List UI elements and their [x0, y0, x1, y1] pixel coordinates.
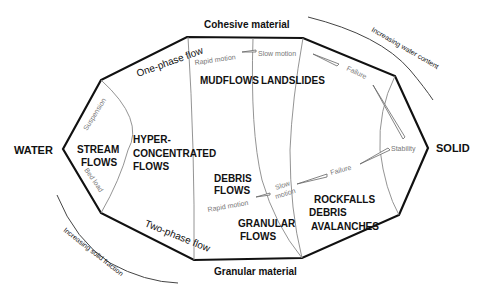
- region-hyper-3: FLOWS: [133, 161, 169, 172]
- label-failure-bottom: Failure: [329, 164, 352, 176]
- region-hyper-1: HYPER-: [133, 134, 171, 145]
- region-debris-avalanches-1: DEBRIS: [309, 207, 347, 218]
- region-stream-flows-2: FLOWS: [81, 157, 117, 168]
- region-rockfalls: ROCKFALLS: [314, 194, 375, 205]
- region-landslides: LANDSLIDES: [261, 75, 325, 86]
- label-cohesive-material: Cohesive material: [204, 19, 290, 30]
- label-stability: Stability: [391, 145, 416, 153]
- label-increasing-solid-fraction: Increasing solid fraction: [62, 226, 125, 278]
- arrow-failure-bottom: [360, 148, 390, 164]
- arrow-rapid-slow-top: [242, 50, 256, 52]
- label-two-phase-flow: Two-phase flow: [143, 218, 212, 255]
- region-stream-flows-1: STREAM: [77, 144, 119, 155]
- region-mudflows: MUDFLOWS: [200, 75, 259, 86]
- label-water: WATER: [14, 144, 53, 156]
- arrow-failure-top: [313, 54, 339, 66]
- region-debris-avalanches-2: AVALANCHES: [311, 221, 379, 232]
- arrow-rapid-slow-bottom: [256, 193, 270, 197]
- arrow-slow-failure: [297, 174, 327, 184]
- region-debris-flows-1: DEBRIS: [214, 173, 252, 184]
- label-granular-material: Granular material: [214, 266, 297, 277]
- label-rapid-motion-bottom: Rapid motion: [207, 199, 249, 214]
- flow-classification-diagram: WATER SOLID Cohesive material Granular m…: [0, 0, 485, 299]
- water-content-curve: [308, 17, 433, 100]
- label-solid: SOLID: [436, 142, 470, 154]
- label-suspension: Suspension: [82, 97, 108, 132]
- region-granular-flows-1: GRANULAR: [238, 218, 296, 229]
- label-slow-motion-top: Slow motion: [258, 50, 296, 57]
- region-debris-flows-2: FLOWS: [214, 185, 250, 196]
- region-granular-flows-2: FLOWS: [240, 231, 276, 242]
- region-hyper-2: CONCENTRATED: [133, 148, 216, 159]
- label-failure-top: Failure: [346, 65, 368, 80]
- arrow-stability-to-landslide: [373, 85, 405, 139]
